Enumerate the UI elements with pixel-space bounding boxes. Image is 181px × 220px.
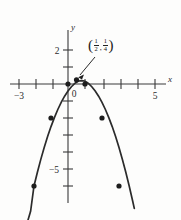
data-point-2--2 [99, 115, 104, 120]
annotation-x-fraction: 1 2 [94, 38, 99, 52]
annotation-open-paren: ( [88, 39, 93, 51]
annotation-leader-group [78, 57, 95, 80]
annotation-leader-line [80, 57, 95, 75]
x-tick-label--3: −3 [14, 91, 24, 101]
coordinate-plane-svg: x y −3 5 2 −5 0 [0, 0, 181, 220]
graph-figure: x y −3 5 2 −5 0 ( 1 2 , 1 4 ) [0, 0, 181, 220]
data-point--1--2 [48, 115, 53, 120]
annotation-x-denominator: 2 [94, 45, 99, 53]
origin-label: 0 [72, 89, 77, 99]
data-point-1-0 [82, 81, 87, 86]
annotation-arrowhead [78, 75, 84, 80]
y-axis-label: y [70, 22, 75, 32]
parabola-curve [27, 81, 134, 220]
y-tick-label-2: 2 [55, 46, 60, 56]
annotation-close-paren: ) [109, 39, 114, 51]
annotation-y-denominator: 4 [103, 45, 108, 53]
x-tick-label-5: 5 [153, 91, 158, 101]
annotation-y-fraction: 1 4 [103, 38, 108, 52]
x-axis-label: x [167, 74, 172, 84]
vertex-point [74, 77, 79, 82]
data-point-0-0 [65, 81, 70, 86]
data-point--2--6 [31, 183, 36, 188]
annotation-comma: , [100, 44, 102, 52]
y-axis-group [63, 30, 73, 203]
plotted-points-group [31, 77, 121, 188]
y-tick-label--5: −5 [49, 165, 59, 175]
vertex-annotation-label: ( 1 2 , 1 4 ) [88, 38, 114, 52]
data-point-3--6 [116, 183, 121, 188]
